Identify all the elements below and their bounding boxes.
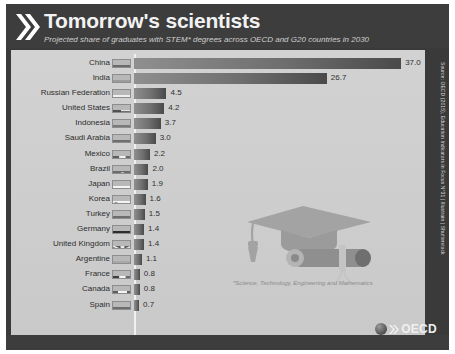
bar-value-label: 1.5 — [149, 209, 160, 218]
bar-value-label: 0.7 — [143, 300, 154, 309]
table-row: France0.8 — [11, 267, 425, 282]
bar — [134, 88, 166, 99]
table-row: Spain0.7 — [11, 298, 425, 313]
bar — [134, 103, 164, 114]
category-label: Turkey — [86, 209, 110, 218]
flag-indonesia-icon — [112, 119, 131, 128]
flag-china-icon — [112, 59, 131, 68]
bar — [134, 149, 150, 160]
oecd-wordmark: OECD — [401, 322, 437, 336]
flag-canada-icon — [112, 285, 131, 294]
table-row: Brazil2.0 — [11, 162, 425, 177]
table-row: Indonesia3.7 — [11, 116, 425, 131]
bar — [134, 224, 144, 235]
category-label: France — [85, 269, 110, 278]
category-label: Spain — [90, 300, 110, 309]
category-label: Brazil — [90, 164, 110, 173]
bar-value-label: 1.9 — [152, 179, 163, 188]
flag-germany-icon — [112, 225, 131, 234]
flag-argentina-icon — [112, 255, 131, 264]
category-label: Saudi Arabia — [65, 133, 110, 142]
poster-footer — [6, 335, 449, 350]
bar-value-label: 1.4 — [148, 239, 159, 248]
flag-united-states-icon — [112, 104, 131, 113]
category-label: United Kingdom — [53, 239, 110, 248]
category-label: Canada — [82, 284, 110, 293]
double-chevron-right-icon — [14, 12, 40, 42]
source-credit: Source: OECD (2015), Education Indicator… — [437, 60, 447, 325]
bar-value-label: 3.7 — [165, 118, 176, 127]
bar — [134, 209, 145, 220]
bar — [134, 194, 146, 205]
category-label: China — [89, 58, 110, 67]
flag-brazil-icon — [112, 165, 131, 174]
table-row: China37.0 — [11, 56, 425, 71]
page-subtitle: Projected share of graduates with STEM* … — [44, 35, 369, 44]
double-chevron-right-icon — [389, 324, 399, 335]
table-row: Canada0.8 — [11, 282, 425, 297]
flag-united-kingdom-icon — [112, 240, 131, 249]
flag-france-icon — [112, 270, 131, 279]
bar — [134, 239, 144, 250]
source-credit-text: Source: OECD (2015), Education Indicator… — [440, 62, 446, 255]
bar — [134, 254, 142, 265]
bar — [134, 164, 148, 175]
flag-turkey-icon — [112, 210, 131, 219]
oecd-logo: OECD — [375, 322, 437, 336]
flag-mexico-icon — [112, 150, 131, 159]
bar — [134, 73, 327, 84]
bar-value-label: 2.2 — [154, 149, 165, 158]
table-row: Germany1.4 — [11, 222, 425, 237]
flag-japan-icon — [112, 180, 131, 189]
flag-korea-icon — [112, 195, 131, 204]
bar-value-label: 1.1 — [146, 254, 157, 263]
bar-value-label: 0.8 — [144, 284, 155, 293]
bar-value-label: 2.0 — [152, 164, 163, 173]
category-label: Germany — [77, 224, 110, 233]
bar — [134, 269, 140, 280]
bar-value-label: 1.4 — [148, 224, 159, 233]
table-row: Japan1.9 — [11, 177, 425, 192]
category-label: Argentine — [76, 254, 110, 263]
flag-saudi-arabia-icon — [112, 134, 131, 143]
flag-spain-icon — [112, 301, 131, 310]
bar-rows: China37.0India26.7Russian Federation4.5U… — [11, 56, 425, 345]
category-label: Korea — [89, 194, 110, 203]
category-label: Indonesia — [75, 118, 110, 127]
bar-value-label: 0.8 — [144, 269, 155, 278]
bar — [134, 118, 161, 129]
bar — [134, 284, 140, 295]
bar — [134, 300, 139, 311]
page-title: Tomorrow's scientists — [44, 9, 260, 33]
bar — [134, 179, 148, 190]
poster-header: Tomorrow's scientists Projected share of… — [6, 4, 449, 48]
flag-russia-icon — [112, 89, 131, 98]
category-label: India — [93, 73, 110, 82]
bar-value-label: 37.0 — [405, 58, 421, 67]
table-row: Russian Federation4.5 — [11, 86, 425, 101]
category-label: Japan — [88, 179, 110, 188]
table-row: India26.7 — [11, 71, 425, 86]
table-row: Argentine1.1 — [11, 252, 425, 267]
poster-frame: Tomorrow's scientists Projected share of… — [6, 4, 449, 350]
infographic-poster: Tomorrow's scientists Projected share of… — [0, 0, 455, 354]
globe-icon — [375, 323, 387, 335]
bar-value-label: 4.5 — [170, 88, 181, 97]
bar-value-label: 3.0 — [160, 133, 171, 142]
category-label: Mexico — [85, 149, 110, 158]
table-row: Mexico2.2 — [11, 147, 425, 162]
chart-plate: *Science, Technology, Engineering and Ma… — [11, 50, 425, 345]
table-row: Korea1.6 — [11, 192, 425, 207]
table-row: United Kingdom1.4 — [11, 237, 425, 252]
table-row: Turkey1.5 — [11, 207, 425, 222]
flag-india-icon — [112, 74, 131, 83]
bar — [134, 133, 156, 144]
bar — [134, 58, 401, 69]
bar-value-label: 26.7 — [331, 73, 347, 82]
bar-value-label: 4.2 — [168, 103, 179, 112]
category-label: Russian Federation — [41, 88, 110, 97]
table-row: Saudi Arabia3.0 — [11, 131, 425, 146]
bar-value-label: 1.6 — [150, 194, 161, 203]
table-row: United States4.2 — [11, 101, 425, 116]
category-label: United States — [62, 103, 110, 112]
